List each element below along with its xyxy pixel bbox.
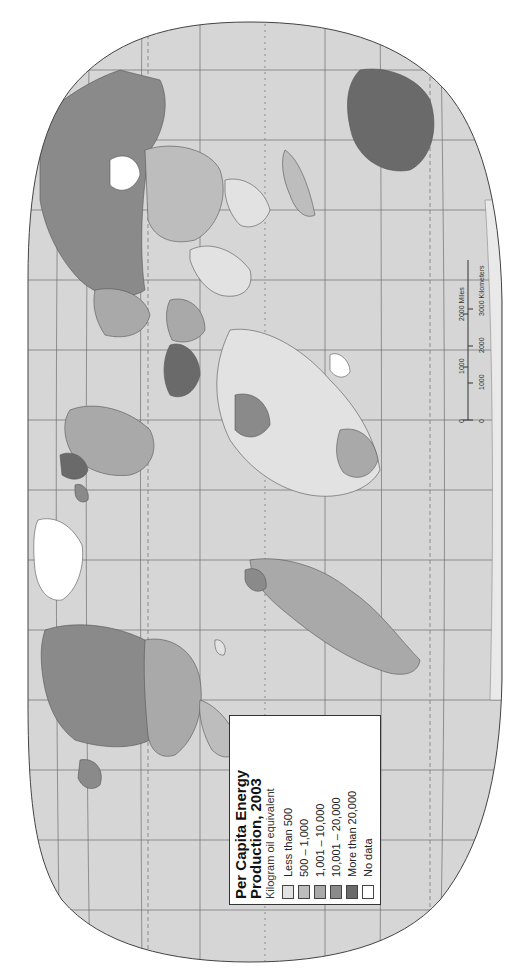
map-projection [0,0,512,978]
world-map [0,0,512,978]
